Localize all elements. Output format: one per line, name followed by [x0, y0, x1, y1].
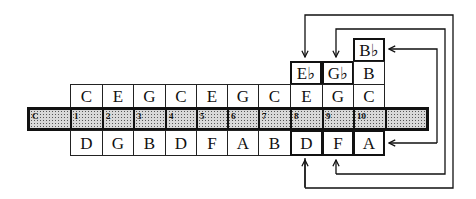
bend-arrows — [0, 0, 476, 199]
arrow-a-to-bflat — [389, 49, 437, 143]
arrow-d-to-eflat — [305, 15, 453, 188]
arrow-f-to-gflat — [336, 29, 445, 174]
